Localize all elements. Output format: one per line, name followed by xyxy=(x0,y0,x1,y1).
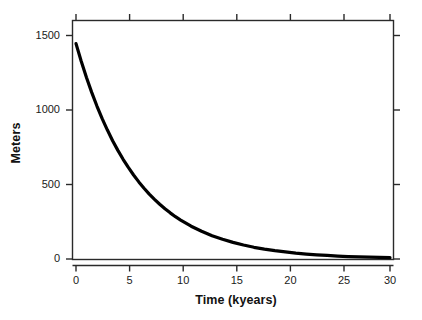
plot-frame xyxy=(73,21,394,260)
plot-area xyxy=(0,0,422,320)
x-tick-label-20: 20 xyxy=(270,274,310,286)
x-tick-label-15: 15 xyxy=(217,274,257,286)
x-tick-label-30: 30 xyxy=(370,274,410,286)
x-tick-label-5: 5 xyxy=(110,274,150,286)
y-tick-label-1500: 1500 xyxy=(22,29,60,41)
chart-figure: 1500 1000 500 0 0 5 10 15 20 25 30 Time … xyxy=(0,0,422,320)
x-tick-label-0: 0 xyxy=(56,274,96,286)
x-tick-label-25: 25 xyxy=(324,274,364,286)
x-axis-ticks-top xyxy=(76,14,390,21)
x-axis-ticks-bottom xyxy=(76,266,390,272)
y-tick-label-1000: 1000 xyxy=(22,103,60,115)
y-axis-title: Meters xyxy=(9,103,23,183)
y-axis-ticks-left xyxy=(66,36,73,260)
x-axis-title: Time (kyears) xyxy=(0,293,422,307)
y-axis-ticks-right xyxy=(394,36,401,260)
y-tick-label-0: 0 xyxy=(22,252,60,264)
x-tick-label-10: 10 xyxy=(163,274,203,286)
y-tick-label-500: 500 xyxy=(22,178,60,190)
